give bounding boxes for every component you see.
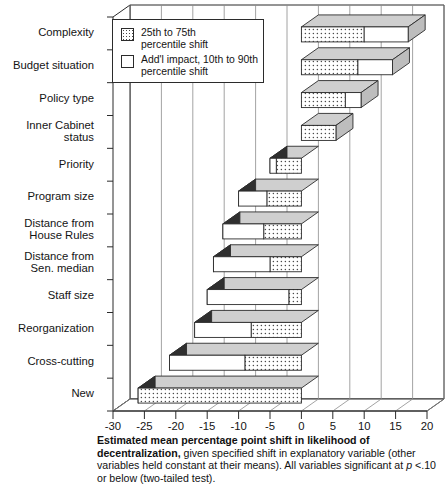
chart-figure: ComplexityBudget situationPolicy typeInn…	[0, 0, 446, 488]
figure-caption: Estimated mean percentage point shift in…	[97, 434, 437, 484]
x-tick-label: 20	[410, 420, 444, 432]
legend-item-1: Add'l impact, 10th to 90th percentile sh…	[121, 54, 258, 77]
legend-swatch-dotted-icon	[121, 28, 134, 41]
x-tick-label: -15	[190, 420, 224, 432]
x-tick-label: 0	[284, 420, 318, 432]
x-tick-label: -20	[159, 420, 193, 432]
x-tick-label: 10	[347, 420, 381, 432]
legend-label-1: Add'l impact, 10th to 90th percentile sh…	[141, 54, 258, 77]
x-tick-label: -30	[96, 420, 130, 432]
x-tick-label: -5	[253, 420, 287, 432]
x-tick-label: 5	[316, 420, 350, 432]
chart-legend: 25th to 75th percentile shift Add'l impa…	[112, 19, 264, 83]
x-tick-label: -25	[127, 420, 161, 432]
legend-label-0: 25th to 75th percentile shift	[141, 27, 208, 50]
x-tick-label: -10	[222, 420, 256, 432]
plot-area: ComplexityBudget situationPolicy typeInn…	[0, 0, 446, 430]
x-tick-label: 15	[379, 420, 413, 432]
legend-swatch-white-icon	[121, 55, 134, 68]
legend-item-0: 25th to 75th percentile shift	[121, 27, 208, 50]
